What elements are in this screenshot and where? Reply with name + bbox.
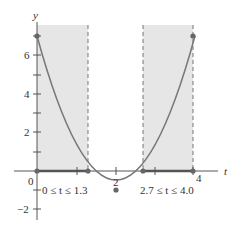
y-tick-label-6: 6 [24,49,30,61]
x-tick-label-2: 2 [113,176,119,188]
y-tick-label-2: 2 [24,126,30,138]
parabola-chart: y t 0 2 4 6 4 2 −2 0 ≤ t ≤ 1.3 2.7 ≤ t ≤… [0,0,240,234]
t-axis-label: t [224,165,228,177]
shaded-region-1 [37,25,88,171]
interval-label-1: 0 ≤ t ≤ 1.3 [42,184,88,196]
x-tick-label-4: 4 [196,172,202,184]
interval-label-2: 2.7 ≤ t ≤ 4.0 [140,184,194,196]
y-axis-label: y [32,9,38,21]
origin-label: 0 [28,175,34,187]
y-tick-label-4: 4 [24,88,30,100]
shaded-region-2 [143,25,193,171]
y-tick-label-neg2: −2 [17,203,29,215]
